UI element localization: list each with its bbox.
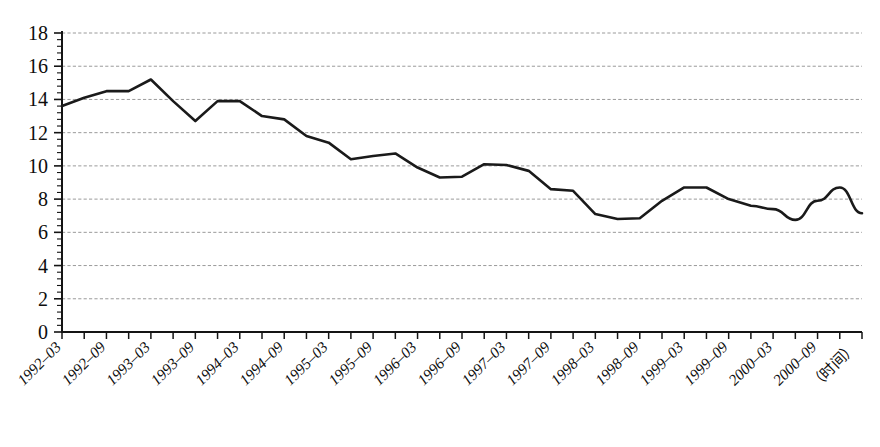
- x-tick-label: 1998–03: [547, 338, 598, 389]
- x-tick-label: 1995–03: [280, 338, 331, 389]
- chart-container: 024681012141618 1992–031992–091993–03199…: [0, 0, 880, 447]
- x-tick-label: 1995–09: [325, 338, 376, 389]
- y-tick-label: 16: [28, 55, 48, 77]
- x-tick-label: 1994–03: [192, 338, 243, 389]
- y-tick-labels: 024681012141618: [28, 22, 48, 343]
- x-tick-label: 1993–09: [147, 338, 198, 389]
- y-tick-label: 2: [38, 288, 48, 310]
- y-tick-label: 18: [28, 22, 48, 44]
- x-tick-label: 1997–03: [458, 338, 509, 389]
- y-tick-label: 6: [38, 221, 48, 243]
- line-chart: 024681012141618 1992–031992–091993–03199…: [0, 0, 880, 447]
- y-tick-label: 0: [38, 321, 48, 343]
- x-tick-label: 1992–03: [14, 338, 65, 389]
- grid-lines: [62, 33, 862, 332]
- x-tick-label: 1997–09: [503, 338, 554, 389]
- x-tick-label: 1996–03: [369, 338, 420, 389]
- y-tick-label: 10: [28, 155, 48, 177]
- x-tick-label: 1993–03: [103, 338, 154, 389]
- y-tick-label: 14: [28, 88, 48, 110]
- x-tick-label: 1992–09: [58, 338, 109, 389]
- x-tick-label: 2000–03: [725, 338, 776, 389]
- x-tick-label: 1994–09: [236, 338, 287, 389]
- x-tick-labels: 1992–031992–091993–031993–091994–031994–…: [14, 338, 820, 389]
- y-axis: [54, 31, 62, 332]
- x-tick-label: 1998–09: [592, 338, 643, 389]
- y-tick-label: 12: [28, 122, 48, 144]
- x-axis: [61, 332, 862, 339]
- y-tick-label: 4: [38, 255, 48, 277]
- y-tick-label: 8: [38, 188, 48, 210]
- x-tick-label: 1999–03: [636, 338, 687, 389]
- x-tick-label: 1999–09: [680, 338, 731, 389]
- x-tick-label: 1996–09: [414, 338, 465, 389]
